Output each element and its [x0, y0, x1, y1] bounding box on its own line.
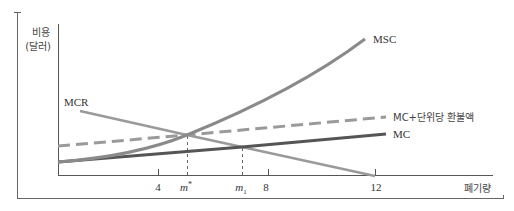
- msc-label: MSC: [373, 33, 396, 45]
- mc-refund-label: MC+단위당 환불액: [393, 111, 474, 123]
- mc-label: MC: [393, 128, 410, 140]
- cost-waste-chart: 비용 (달러) MSC MCR MC+단위당 환불액 MC 4 m* m1 8 …: [0, 0, 514, 211]
- x-axis-label: 폐기량: [464, 183, 491, 194]
- mc-line: [58, 134, 386, 162]
- m1-base: m: [235, 181, 243, 193]
- m-star-base: m: [180, 181, 188, 193]
- m-star-sup: *: [188, 180, 192, 189]
- tick-label-4: 4: [155, 181, 161, 193]
- tick-label-12: 12: [371, 181, 382, 193]
- tick-label-8: 8: [263, 181, 269, 193]
- tick-label-m-star: m*: [180, 180, 192, 193]
- m1-sub: 1: [243, 188, 247, 196]
- mcr-label: MCR: [64, 96, 89, 108]
- y-axis-label-line2: (달러): [25, 41, 51, 52]
- y-axis-label-line1: 비용: [32, 27, 50, 38]
- tick-label-m1: m1: [235, 181, 247, 196]
